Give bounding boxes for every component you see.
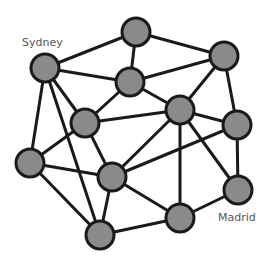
node-n1	[122, 18, 150, 46]
node-n8	[16, 149, 44, 177]
node-n5	[166, 96, 194, 124]
node-sydney	[31, 54, 59, 82]
node-madrid	[224, 176, 252, 204]
edges-layer	[30, 32, 238, 235]
node-n6	[223, 111, 251, 139]
node-n9	[98, 163, 126, 191]
network-graph: Sydney Madrid	[0, 0, 264, 262]
node-n12	[86, 221, 114, 249]
edge-sydney-n12	[45, 68, 100, 235]
label-sydney: Sydney	[22, 36, 63, 49]
node-n3	[210, 42, 238, 70]
edge-n6-n9	[112, 125, 237, 177]
node-n4	[116, 68, 144, 96]
node-n7	[71, 109, 99, 137]
label-madrid: Madrid	[218, 211, 256, 224]
node-n11	[166, 204, 194, 232]
